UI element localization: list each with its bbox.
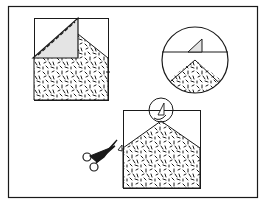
step-3-cut-square <box>118 98 201 189</box>
diagram-svg <box>0 0 262 203</box>
step-1-folded-square <box>33 18 110 101</box>
instruction-diagram: Fold corner down to form house shape Det… <box>0 0 262 203</box>
